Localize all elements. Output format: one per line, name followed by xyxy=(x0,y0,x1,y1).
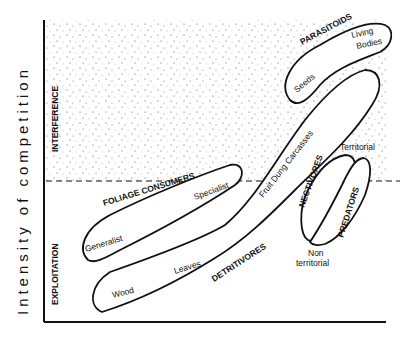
non-label: Non xyxy=(308,248,324,258)
territorial-lower-label: territorial xyxy=(296,258,329,268)
exploitation-label: EXPLOITATION xyxy=(50,243,60,305)
y-axis-label: Intensity of competition xyxy=(14,70,31,315)
interference-label: INTERFERENCE xyxy=(50,86,60,152)
territorial-label: Territorial xyxy=(340,142,375,152)
competition-diagram: Intensity of competition INTERFERENCE EX… xyxy=(0,0,416,343)
